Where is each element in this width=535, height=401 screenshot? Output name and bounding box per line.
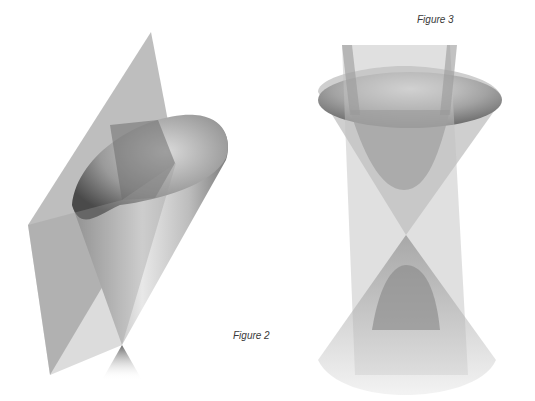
figure-3-caption: Figure 3 — [417, 14, 454, 25]
figure-3-diagram — [318, 45, 502, 395]
figure-2-diagram — [28, 32, 228, 380]
figure-2-caption: Figure 2 — [233, 330, 270, 341]
